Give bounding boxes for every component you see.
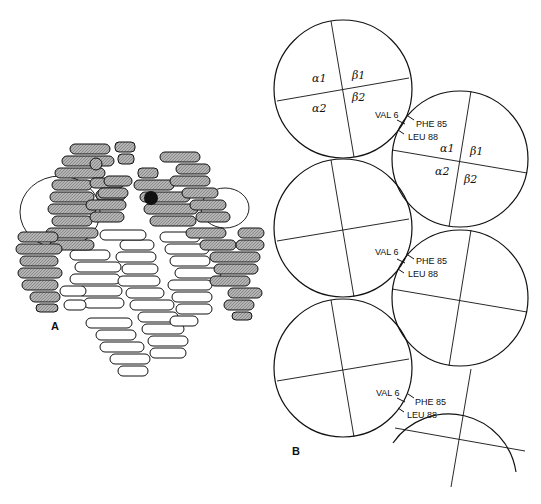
label-alpha2-t1: α2	[312, 102, 326, 115]
panel-label-a: A	[51, 320, 59, 332]
tetramer-2	[392, 91, 528, 227]
label-alpha2-t2: α2	[435, 165, 449, 178]
label-leu88-3: LEU 88	[407, 410, 437, 420]
label-beta2-t1: β2	[351, 91, 365, 104]
label-leu88-1: LEU 88	[408, 132, 438, 142]
label-phe85-2: PHE 85	[416, 256, 447, 266]
tetramer-5	[274, 299, 412, 437]
label-val6-1: VAL 6	[375, 110, 399, 120]
tetramer-1	[274, 20, 412, 158]
label-phe85-3: PHE 85	[415, 397, 446, 407]
label-val6-2: VAL 6	[375, 247, 399, 257]
label-alpha1-t2: α1	[440, 142, 454, 155]
label-phe85-1: PHE 85	[416, 119, 447, 129]
hemoglobin-ribbon-model: A	[16, 142, 264, 376]
unshaded-chains	[60, 230, 221, 376]
tetramer-4	[392, 230, 528, 366]
panel-label-b: B	[292, 445, 300, 457]
label-beta1-t1: β1	[351, 69, 365, 82]
heme-group-filled	[144, 191, 158, 205]
label-beta1-t2: β1	[469, 145, 483, 158]
figure-canvas: A	[0, 0, 541, 504]
heme-group-hatched	[90, 158, 102, 170]
tetramer-3	[274, 159, 412, 297]
fiber-packing-schematic	[274, 20, 528, 487]
label-beta2-t2: β2	[463, 173, 477, 186]
label-alpha1-t1: α1	[312, 72, 326, 85]
tetramer-6-partial	[393, 369, 525, 487]
label-leu88-2: LEU 88	[408, 269, 438, 279]
label-val6-3: VAL 6	[376, 388, 400, 398]
